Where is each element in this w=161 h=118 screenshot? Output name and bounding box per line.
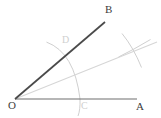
ray-OB <box>15 22 105 99</box>
vertex-label-B: B <box>105 4 112 15</box>
arc-from-D <box>119 40 151 58</box>
vertex-label-D: D <box>62 35 69 45</box>
vertex-label-O: O <box>8 100 16 111</box>
vertex-label-A: A <box>136 101 144 112</box>
vertex-label-C: C <box>81 101 88 111</box>
geometry-figure: O A B C D <box>0 0 161 118</box>
bisector-ray <box>15 42 157 99</box>
